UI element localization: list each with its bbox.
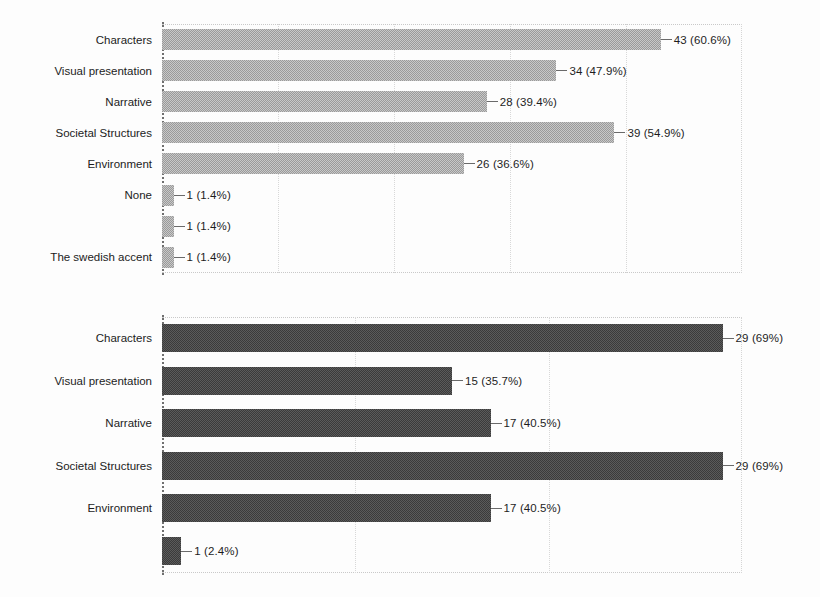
bar-visual-presentation[interactable] [162,60,556,81]
plot-area-bottom: 29 (69%) 15 (35.7%) 17 (40.5%) [162,317,742,573]
y-axis-label: The swedish accent [50,251,152,263]
y-axis-line-bottom [162,315,164,575]
bar-value-label: 26 (36.6%) [477,158,534,170]
document-page: Characters Visual presentation Narrative… [0,0,820,597]
bar-row: 29 (69%) [162,324,742,352]
leader-line-icon [174,257,185,258]
bar-row: 1 (1.4%) [162,216,742,237]
bar-value-label: 15 (35.7%) [465,375,522,387]
bar-value-wrap: 1 (2.4%) [181,545,238,557]
bar-value-wrap: 26 (36.6%) [464,158,534,170]
plot-frame-top-line [162,24,742,25]
gridline-10 [355,317,356,573]
bar-value-wrap: 29 (69%) [723,460,783,472]
bar-row: 1 (2.4%) [162,537,742,565]
bar-value-wrap: 1 (1.4%) [174,251,231,263]
bar-row: 1 (1.4%) [162,247,742,268]
y-axis-label: Characters [96,332,152,344]
bar-characters[interactable] [162,29,661,50]
bar-value-label: 1 (1.4%) [187,189,231,201]
bar-row: 1 (1.4%) [162,185,742,206]
y-axis-label: Visual presentation [54,375,152,387]
bar-societal-structures[interactable] [162,452,723,480]
plot-frame-right-line [741,317,742,573]
bar-value-wrap: 34 (47.9%) [556,65,626,77]
bar-row: 17 (40.5%) [162,494,742,522]
bar-value-label: 34 (47.9%) [569,65,626,77]
bar-value-label: 28 (39.4%) [500,96,557,108]
x-axis-line-bottom [162,572,742,573]
bar-narrative[interactable] [162,91,487,112]
leader-line-icon [181,551,192,552]
bar-row: 15 (35.7%) [162,367,742,395]
bar-chart-bottom: Characters Visual presentation Narrative… [0,300,820,597]
bar-row: 17 (40.5%) [162,409,742,437]
bar-unlabeled[interactable] [162,216,174,237]
leader-line-icon [174,195,185,196]
leader-line-icon [491,423,502,424]
bar-value-label: 1 (2.4%) [194,545,238,557]
bar-row: 34 (47.9%) [162,60,742,81]
bar-narrative[interactable] [162,409,491,437]
leader-line-icon [661,39,672,40]
leader-line-icon [491,508,502,509]
y-axis-label: None [125,189,153,201]
bar-value-wrap: 15 (35.7%) [452,375,522,387]
bar-environment[interactable] [162,494,491,522]
y-axis-label: Characters [96,34,152,46]
bar-the-swedish-accent[interactable] [162,247,174,268]
bar-value-wrap: 43 (60.6%) [661,34,731,46]
leader-line-icon [556,70,567,71]
bar-value-wrap: 28 (39.4%) [487,96,557,108]
y-axis-label: Environment [87,502,152,514]
bar-characters[interactable] [162,324,723,352]
leader-line-icon [487,101,498,102]
y-axis-label: Societal Structures [55,127,152,139]
bar-value-label: 29 (69%) [736,460,783,472]
bar-row: 29 (69%) [162,452,742,480]
bar-societal-structures[interactable] [162,122,614,143]
leader-line-icon [723,465,734,466]
bar-value-label: 29 (69%) [736,332,783,344]
bar-value-label: 17 (40.5%) [504,417,561,429]
bar-value-wrap: 1 (1.4%) [174,189,231,201]
leader-line-icon [174,226,185,227]
bar-unlabeled[interactable] [162,537,181,565]
bar-value-wrap: 17 (40.5%) [491,502,561,514]
leader-line-icon [464,163,475,164]
plot-area-top: 43 (60.6%) 34 (47.9%) 28 (39.4%) [162,24,742,273]
leader-line-icon [452,380,463,381]
leader-line-icon [723,338,734,339]
y-axis-label: Narrative [105,417,152,429]
bar-value-wrap: 39 (54.9%) [614,127,684,139]
plot-frame-top-line [162,317,742,318]
bar-visual-presentation[interactable] [162,367,452,395]
bar-value-wrap: 17 (40.5%) [491,417,561,429]
bar-row: 28 (39.4%) [162,91,742,112]
x-axis-line-top [162,272,742,273]
bar-none[interactable] [162,185,174,206]
y-axis-label: Narrative [105,96,152,108]
bar-row: 39 (54.9%) [162,122,742,143]
bar-value-wrap: 1 (1.4%) [174,220,231,232]
bar-row: 43 (60.6%) [162,29,742,50]
y-axis-labels-top: Characters Visual presentation Narrative… [0,24,157,273]
y-axis-label: Societal Structures [55,460,152,472]
bar-value-label: 1 (1.4%) [187,220,231,232]
gridline-20 [549,317,550,573]
bar-row: 26 (36.6%) [162,153,742,174]
bar-value-label: 39 (54.9%) [627,127,684,139]
bar-value-label: 1 (1.4%) [187,251,231,263]
bar-value-wrap: 29 (69%) [723,332,783,344]
y-axis-label: Visual presentation [54,65,152,77]
y-axis-labels-bottom: Characters Visual presentation Narrative… [0,317,157,573]
bar-chart-top: Characters Visual presentation Narrative… [0,0,820,300]
y-axis-label: Environment [87,158,152,170]
bar-value-label: 17 (40.5%) [504,502,561,514]
bar-value-label: 43 (60.6%) [674,34,731,46]
bar-environment[interactable] [162,153,464,174]
leader-line-icon [614,132,625,133]
